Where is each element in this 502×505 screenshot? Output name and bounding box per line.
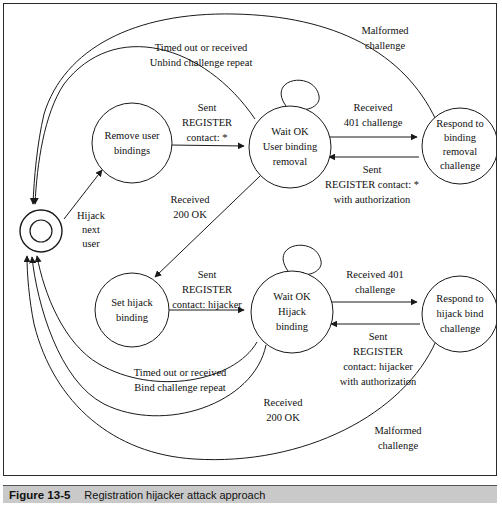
sent-register-hijacker-auth-line1: Sent xyxy=(369,331,388,342)
start-label-line1: Hijack xyxy=(77,210,106,221)
node-wait-ok-hijack-binding[interactable]: Wait OK Hijack binding xyxy=(251,271,333,353)
malformed-top-line2: challenge xyxy=(365,40,406,51)
figure-title: Registration hijacker attack approach xyxy=(84,489,265,501)
wait-ok-user-line1: Wait OK xyxy=(271,126,309,137)
wait-ok-hijack-line3: binding xyxy=(276,321,309,332)
set-hijack-line2: binding xyxy=(116,312,149,323)
state-diagram: Hijack next user Remove user bindings Wa… xyxy=(4,4,496,475)
received-401-bottom-line1: Received 401 xyxy=(346,269,403,280)
sent-register-hijacker-auth-line2: REGISTER xyxy=(353,346,403,357)
sent-register-hijacker-auth-line3: contact: hijacker xyxy=(343,361,413,372)
received-200-bottom-line2: 200 OK xyxy=(266,412,300,423)
sent-register-hijacker-line1: Sent xyxy=(198,269,217,280)
set-hijack-line1: Set hijack xyxy=(111,297,153,308)
timed-out-bind-line1: Timed out or received xyxy=(134,367,227,378)
received-401-bottom-line2: challenge xyxy=(355,284,396,295)
respond-hijack-line3: challenge xyxy=(440,323,481,334)
node-respond-to-binding-removal-challenge[interactable]: Respond to binding removal challenge xyxy=(422,108,496,184)
sent-register-star-line2: REGISTER xyxy=(182,117,232,128)
edge-label-received-401-top: Received 401 challenge xyxy=(344,102,403,128)
respond-hijack-line1: Respond to xyxy=(436,293,484,304)
received-401-top-line2: 401 challenge xyxy=(344,117,403,128)
sent-register-auth-line3: with authorization xyxy=(334,194,411,205)
edge-label-received-401-bottom: Received 401 challenge xyxy=(346,269,403,295)
node-start-state[interactable] xyxy=(20,210,62,252)
edge-label-malformed-bottom: Malformed challenge xyxy=(374,425,422,451)
received-200-bottom-line1: Received xyxy=(263,397,303,408)
timed-out-unbind-line1: Timed out or received xyxy=(155,42,248,53)
wait-ok-user-line2: User binding xyxy=(263,141,318,152)
node-remove-user-bindings[interactable]: Remove user bindings xyxy=(92,103,172,183)
sent-register-auth-line1: Sent xyxy=(363,164,382,175)
respond-binding-line2: binding xyxy=(444,132,477,143)
edge-received-200-top xyxy=(155,176,260,277)
start-label-line3: user xyxy=(82,238,100,249)
received-401-top-line1: Received xyxy=(353,102,393,113)
timed-out-unbind-line2: Unbind challenge repeat xyxy=(150,57,253,68)
node-start-state-label: Hijack next user xyxy=(77,210,106,249)
node-wait-ok-user-binding-removal[interactable]: Wait OK User binding removal xyxy=(249,106,331,188)
timed-out-bind-line2: Bind challenge repeat xyxy=(134,382,226,393)
sent-register-hijacker-auth-line4: with authorization xyxy=(340,376,417,387)
edge-self-loop-wait-ok-hijack xyxy=(283,245,321,274)
remove-user-bindings-line2: bindings xyxy=(114,145,150,156)
sent-register-hijacker-line3: contact: hijacker xyxy=(172,299,242,310)
remove-user-bindings-line1: Remove user xyxy=(104,130,160,141)
respond-binding-line1: Respond to xyxy=(436,118,484,129)
wait-ok-hijack-line1: Wait OK xyxy=(273,291,311,302)
edge-label-sent-register-auth-top: Sent REGISTER contact: * with authorizat… xyxy=(325,164,419,205)
start-label-line2: next xyxy=(82,224,100,235)
figure-number: Figure 13-5 xyxy=(9,489,70,501)
figure-frame: Hijack next user Remove user bindings Wa… xyxy=(3,3,497,476)
malformed-bottom-line2: challenge xyxy=(378,440,419,451)
respond-binding-line3: removal xyxy=(443,146,477,157)
sent-register-star-line1: Sent xyxy=(198,102,217,113)
figure-page: Hijack next user Remove user bindings Wa… xyxy=(0,0,502,505)
malformed-bottom-line1: Malformed xyxy=(374,425,422,436)
node-set-hijack-binding[interactable]: Set hijack binding xyxy=(95,273,169,347)
respond-hijack-line2: hijack bind xyxy=(437,308,485,319)
edge-self-loop-wait-ok-user xyxy=(281,80,319,109)
edge-label-received-200-bottom: Received 200 OK xyxy=(263,397,303,423)
figure-caption-bar: Figure 13-5 Registration hijacker attack… xyxy=(3,485,497,503)
edge-label-sent-register-star: Sent REGISTER contact: * xyxy=(182,102,232,143)
wait-ok-user-line3: removal xyxy=(273,156,307,167)
sent-register-hijacker-line2: REGISTER xyxy=(182,284,232,295)
edge-sent-register-star xyxy=(170,145,244,146)
respond-binding-line4: challenge xyxy=(440,160,481,171)
edge-label-timed-out-unbind: Timed out or received Unbind challenge r… xyxy=(150,42,253,68)
malformed-top-line1: Malformed xyxy=(361,25,409,36)
sent-register-star-line3: contact: * xyxy=(186,132,227,143)
edge-label-sent-register-hijacker: Sent REGISTER contact: hijacker xyxy=(172,269,242,310)
edge-label-malformed-top: Malformed challenge xyxy=(361,25,409,51)
node-respond-to-hijack-bind-challenge[interactable]: Respond to hijack bind challenge xyxy=(422,276,496,352)
received-200-top-line2: 200 OK xyxy=(173,209,207,220)
wait-ok-hijack-line2: Hijack xyxy=(278,306,307,317)
edge-label-received-200-top: Received 200 OK xyxy=(170,194,210,220)
received-200-top-line1: Received xyxy=(170,194,210,205)
edge-label-sent-register-hijacker-auth: Sent REGISTER contact: hijacker with aut… xyxy=(340,331,417,387)
sent-register-auth-line2: REGISTER contact: * xyxy=(325,179,419,190)
